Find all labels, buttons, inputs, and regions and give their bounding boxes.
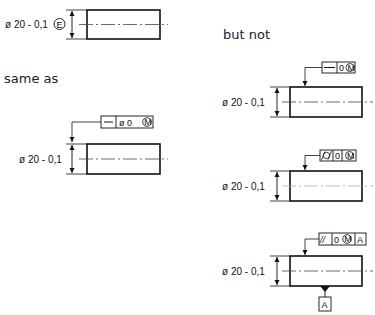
diagram-but-not-straightness: 0 M ø 20 - 0,1 — [222, 62, 373, 117]
svg-text:0: 0 — [334, 235, 339, 245]
dimension-text: ø 20 - 0,1 — [5, 19, 48, 30]
svg-text:M: M — [344, 234, 352, 244]
mmc-modifier-icon: M — [346, 151, 355, 161]
diagram-same-as: ø 0 M ø 20 - 0,1 — [19, 116, 168, 174]
feature-control-frame: // 0 M A — [319, 233, 366, 245]
svg-text:0: 0 — [339, 63, 344, 73]
gdt-diagram-canvas: ø 20 - 0,1 E same as ø 0 M ø 20 - — [0, 0, 375, 315]
datum-label: A — [322, 300, 328, 310]
same-as-label: same as — [4, 71, 58, 86]
leader-line — [305, 156, 320, 171]
svg-text:0: 0 — [335, 151, 340, 161]
envelope-modifier-icon: E — [54, 19, 65, 30]
diagram-but-not-cylindricity: 0 M ø 20 - 0,1 — [222, 150, 373, 201]
leader-line — [305, 239, 319, 255]
svg-text:ø 0: ø 0 — [119, 118, 132, 128]
svg-text:M: M — [348, 63, 356, 73]
diagram-envelope: ø 20 - 0,1 E — [5, 10, 168, 39]
mmc-modifier-icon: M — [343, 234, 352, 244]
svg-text:M: M — [144, 117, 152, 127]
diagram-but-not-parallelism: // 0 M A ø 20 - 0,1 A — [222, 233, 373, 311]
dimension-text: ø 20 - 0,1 — [222, 181, 265, 192]
feature-control-frame: 0 M — [322, 62, 355, 73]
dimension-text: ø 20 - 0,1 — [222, 266, 265, 277]
svg-text:M: M — [347, 151, 355, 161]
feature-control-frame: 0 M — [320, 150, 356, 161]
dimension-text: ø 20 - 0,1 — [19, 154, 62, 165]
leader-line — [305, 68, 322, 87]
dimension-text: ø 20 - 0,1 — [222, 97, 265, 108]
svg-text:E: E — [57, 20, 63, 30]
mmc-modifier-icon: M — [143, 117, 152, 127]
feature-control-frame: ø 0 M — [101, 116, 153, 128]
but-not-label: but not — [223, 27, 270, 42]
mmc-modifier-icon: M — [346, 63, 355, 73]
leader-line — [72, 122, 101, 142]
datum-reference: A — [357, 235, 363, 245]
datum-feature-symbol: A — [319, 286, 331, 311]
